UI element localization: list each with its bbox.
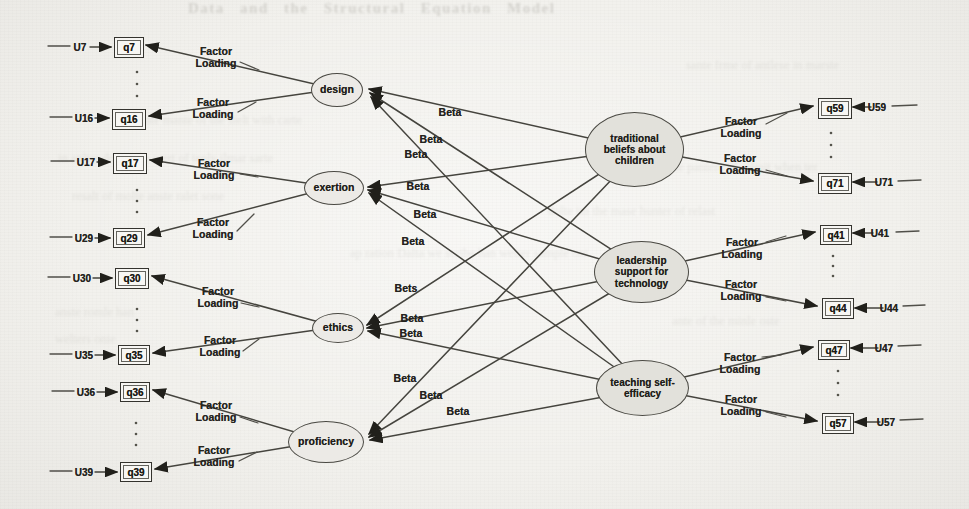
- beta-label: Beta: [401, 312, 424, 324]
- observed-variable-q17: q17: [113, 153, 147, 174]
- factor-loading-label: FactorLoading: [722, 236, 763, 260]
- error-term-u59: U59: [868, 102, 886, 113]
- observed-variable-q30: q30: [115, 268, 149, 289]
- observed-variable-q39: q39: [120, 462, 152, 482]
- observed-variable-q59: q59: [818, 98, 852, 119]
- beta-label: Beta: [405, 148, 428, 160]
- beta-label: Beta: [400, 327, 423, 339]
- error-term-u16: U16: [75, 113, 93, 124]
- error-term-u47: U47: [875, 343, 893, 354]
- error-term-u44: U44: [880, 303, 898, 314]
- factor-loading-label: FactorLoading: [721, 278, 762, 302]
- factor-loading-label: FactorLoading: [721, 393, 762, 417]
- error-term-u17: U17: [77, 157, 95, 168]
- beta-label: Beta: [420, 389, 443, 401]
- observed-variable-q44: q44: [822, 298, 854, 319]
- error-term-u71: U71: [875, 177, 893, 188]
- latent-ethics: ethics: [312, 313, 364, 343]
- observed-variable-q35: q35: [118, 345, 150, 365]
- factor-loading-label: FactorLoading: [720, 152, 761, 176]
- factor-loading-label: FactorLoading: [194, 157, 235, 181]
- latent-traditional-beliefs: traditional beliefs about children: [585, 112, 684, 187]
- factor-loading-label: FactorLoading: [721, 115, 762, 139]
- latent-leadership-support: leadership support for technology: [594, 241, 689, 303]
- beta-label: Beta: [420, 133, 443, 145]
- factor-loading-label: FactorLoading: [720, 351, 761, 375]
- error-term-u29: U29: [75, 233, 93, 244]
- latent-design-label: design: [320, 84, 354, 96]
- scanned-page: Data and the Structural Equation Model o…: [0, 0, 969, 509]
- factor-loading-label: FactorLoading: [193, 96, 234, 120]
- factor-loading-label: FactorLoading: [198, 285, 239, 309]
- factor-loading-label: FactorLoading: [194, 444, 235, 468]
- latent-exertion: exertion: [304, 171, 364, 205]
- beta-label: Beta: [402, 235, 425, 247]
- beta-label: Beta: [394, 372, 417, 384]
- beta-label: Bets: [395, 282, 418, 294]
- factor-loading-label: FactorLoading: [193, 216, 234, 240]
- beta-label: Beta: [414, 208, 437, 220]
- latent-leadership-support-label: leadership support for technology: [606, 255, 678, 289]
- error-term-u41: U41: [871, 228, 889, 239]
- latent-teaching-self-efficacy-label: teaching self-efficacy: [605, 377, 681, 399]
- observed-variable-q16: q16: [112, 109, 146, 130]
- observed-variable-q36: q36: [120, 382, 150, 402]
- beta-label: Beta: [407, 180, 430, 192]
- error-term-u30: U30: [73, 273, 91, 284]
- latent-proficiency-label: proficiency: [298, 436, 354, 448]
- latent-design: design: [311, 73, 363, 107]
- error-term-u57: U57: [877, 417, 895, 428]
- latent-teaching-self-efficacy: teaching self-efficacy: [596, 360, 689, 416]
- latent-ethics-label: ethics: [323, 322, 353, 334]
- beta-label: Beta: [439, 106, 462, 118]
- factor-loading-label: FactorLoading: [196, 45, 237, 69]
- factor-loading-paths: [146, 45, 817, 469]
- observed-variable-q7: q7: [114, 37, 144, 58]
- observed-variable-q71: q71: [818, 173, 852, 194]
- error-term-u39: U39: [75, 467, 93, 478]
- error-term-u7: U7: [74, 42, 87, 53]
- latent-proficiency: proficiency: [288, 421, 364, 463]
- beta-label: Beta: [447, 405, 470, 417]
- label-leader-lines: [237, 62, 787, 461]
- latent-exertion-label: exertion: [314, 182, 355, 194]
- error-term-u36: U36: [77, 387, 95, 398]
- observed-variable-q41: q41: [820, 225, 852, 245]
- observed-variable-q57: q57: [822, 413, 854, 434]
- factor-loading-label: FactorLoading: [196, 399, 237, 423]
- factor-loading-label: FactorLoading: [200, 334, 241, 358]
- latent-traditional-beliefs-label: traditional beliefs about children: [602, 133, 668, 167]
- error-term-u35: U35: [75, 350, 93, 361]
- observed-variable-q47: q47: [818, 340, 850, 360]
- observed-variable-q29: q29: [113, 228, 145, 248]
